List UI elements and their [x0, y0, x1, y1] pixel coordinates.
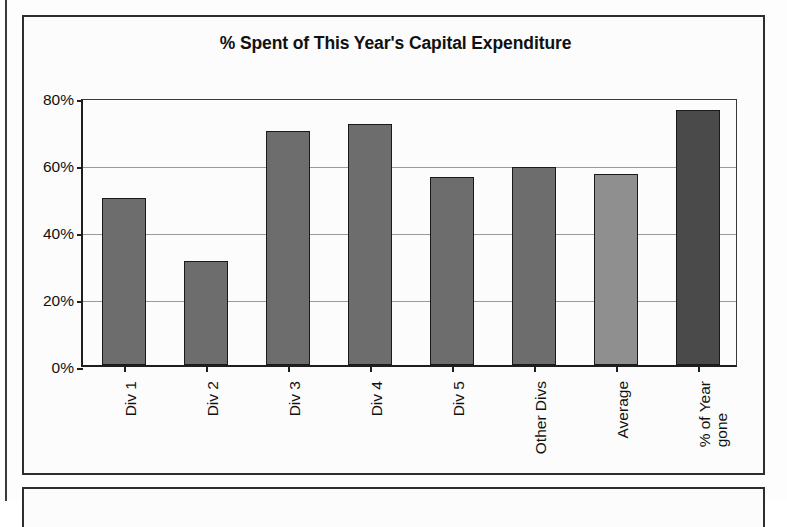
x-axis-label-slot: Div 3	[245, 375, 327, 487]
bar[interactable]	[102, 198, 146, 366]
x-axis-tick-mark	[698, 365, 700, 372]
bar[interactable]	[430, 177, 474, 365]
x-axis-tick-mark	[124, 365, 126, 372]
y-axis-tick-mark	[77, 368, 83, 370]
x-axis-tick-label: Div 1	[122, 381, 139, 416]
x-axis-label-slot: % of Year gone	[655, 375, 737, 487]
bar[interactable]	[266, 131, 310, 366]
bar-slot	[329, 100, 411, 365]
bar-series	[83, 100, 736, 365]
x-axis-label-slot: Div 1	[81, 375, 163, 487]
x-axis-tick-mark	[370, 365, 372, 372]
chart-frame: % Spent of This Year's Capital Expenditu…	[22, 15, 765, 475]
x-axis-label-slot: Div 2	[163, 375, 245, 487]
x-axis-tick-label: Average	[614, 381, 631, 438]
x-axis-tick-mark	[452, 365, 454, 372]
bar[interactable]	[676, 110, 720, 365]
bar[interactable]	[348, 124, 392, 365]
x-axis-tick-mark	[616, 365, 618, 372]
chart-title: % Spent of This Year's Capital Expenditu…	[24, 33, 767, 54]
lower-frame	[22, 487, 765, 527]
y-axis-tick-label: 20%	[43, 292, 74, 310]
y-axis-tick-label: 0%	[52, 359, 74, 377]
x-axis-tick-label: % of Year gone	[696, 381, 730, 447]
bar-slot	[247, 100, 329, 365]
x-axis-tick-label: Div 5	[450, 381, 467, 416]
x-axis-label-slot: Div 5	[409, 375, 491, 487]
x-axis-label-slot: Average	[573, 375, 655, 487]
x-axis-tick-label: Div 3	[286, 381, 303, 416]
bar-slot	[493, 100, 575, 365]
bar-slot	[575, 100, 657, 365]
x-axis-tick-label: Div 4	[368, 381, 385, 416]
bar-slot	[411, 100, 493, 365]
x-axis-tick-mark	[288, 365, 290, 372]
bar[interactable]	[512, 167, 556, 365]
y-axis-tick-label: 80%	[43, 91, 74, 109]
x-axis-tick-mark	[534, 365, 536, 372]
x-axis-tick-label: Div 2	[204, 381, 221, 416]
y-axis-tick-label: 40%	[43, 225, 74, 243]
bar-slot	[657, 100, 739, 365]
x-axis-tick-label: Other Divs	[532, 381, 549, 454]
x-axis-tick-mark	[206, 365, 208, 372]
page-edge-rule	[5, 0, 7, 501]
plot-area: 0%20%40%60%80%	[81, 99, 737, 367]
bar-slot	[83, 100, 165, 365]
bar[interactable]	[594, 174, 638, 365]
x-axis-label-slot: Other Divs	[491, 375, 573, 487]
bar[interactable]	[184, 261, 228, 365]
x-axis-label-slot: Div 4	[327, 375, 409, 487]
x-axis-labels: Div 1Div 2Div 3Div 4Div 5Other DivsAvera…	[81, 375, 737, 487]
y-axis-tick-label: 60%	[43, 158, 74, 176]
bar-slot	[165, 100, 247, 365]
